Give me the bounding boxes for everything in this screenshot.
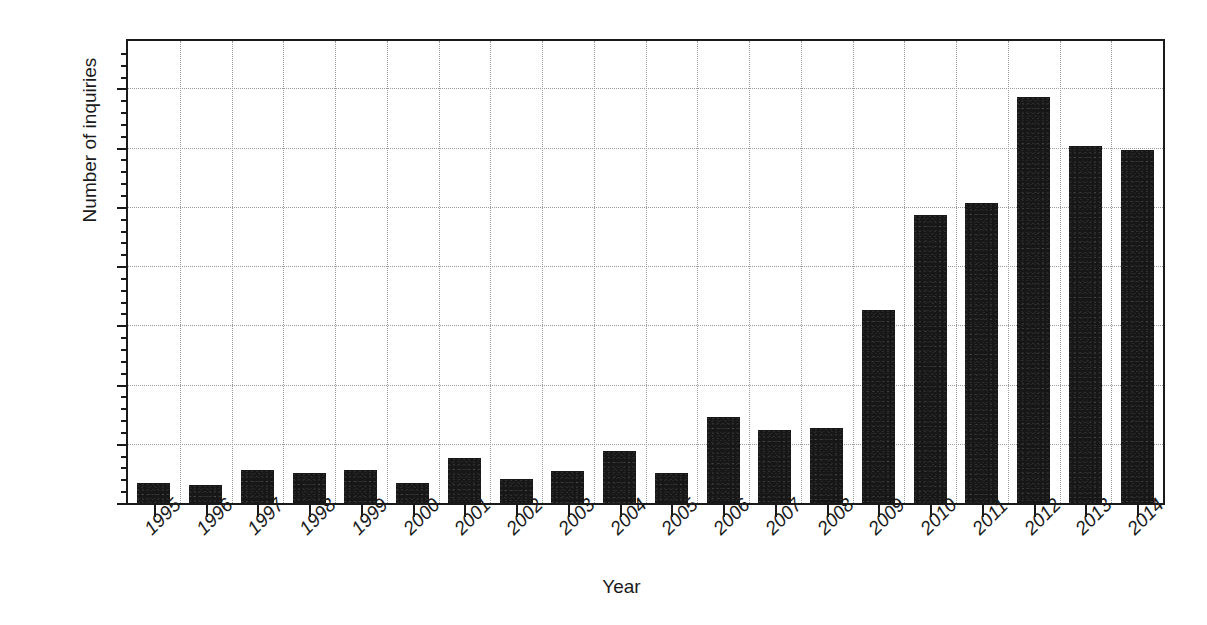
y-tick-minor [121, 136, 128, 138]
y-tick-minor [121, 467, 128, 469]
bar [707, 417, 740, 503]
y-tick-minor [121, 396, 128, 398]
y-tick-minor [121, 491, 128, 493]
x-gridline [283, 41, 284, 503]
y-tick-minor [121, 195, 128, 197]
bar [965, 203, 998, 503]
x-axis-title: Year [0, 576, 1207, 598]
y-tick-major [117, 444, 128, 446]
y-tick-minor [121, 65, 128, 67]
y-tick-minor [121, 278, 128, 280]
bar [810, 428, 843, 503]
y-tick-minor [121, 53, 128, 55]
y-tick-minor [121, 313, 128, 315]
y-tick-minor [121, 337, 128, 339]
y-tick-minor [121, 456, 128, 458]
x-gridline [1008, 41, 1009, 503]
y-tick-minor [121, 112, 128, 114]
x-gridline [1111, 41, 1112, 503]
y-tick-minor [121, 408, 128, 410]
x-gridline [439, 41, 440, 503]
y-tick-minor [121, 124, 128, 126]
y-tick-minor [121, 302, 128, 304]
y-tick-major [117, 266, 128, 268]
x-gridline [180, 41, 181, 503]
y-tick-minor [121, 373, 128, 375]
x-gridline [904, 41, 905, 503]
x-gridline [335, 41, 336, 503]
x-gridline [1060, 41, 1061, 503]
bar [1069, 146, 1102, 503]
plot-inner [128, 41, 1163, 503]
y-tick-minor [121, 479, 128, 481]
y-tick-minor [121, 242, 128, 244]
y-tick-major [117, 325, 128, 327]
y-tick-minor [121, 77, 128, 79]
y-tick-minor [121, 219, 128, 221]
x-gridline [956, 41, 957, 503]
x-gridline [749, 41, 750, 503]
y-tick-minor [121, 100, 128, 102]
bar [1121, 150, 1154, 503]
x-axis-title-text: Year [602, 576, 640, 598]
y-tick-minor [121, 290, 128, 292]
x-gridline [542, 41, 543, 503]
y-tick-minor [121, 159, 128, 161]
y-tick-minor [121, 171, 128, 173]
bar [758, 430, 791, 503]
y-tick-minor [121, 361, 128, 363]
bar [603, 451, 636, 503]
x-gridline [646, 41, 647, 503]
bar [914, 215, 947, 503]
y-tick-minor [121, 254, 128, 256]
x-gridline [594, 41, 595, 503]
x-gridline [232, 41, 233, 503]
x-gridline [387, 41, 388, 503]
y-tick-major [117, 88, 128, 90]
x-gridline [697, 41, 698, 503]
bar [862, 310, 895, 503]
y-tick-major [117, 207, 128, 209]
y-tick-major [117, 503, 128, 505]
plot-area: 050100150200250300350 [126, 39, 1165, 505]
x-gridline [853, 41, 854, 503]
bar [1017, 97, 1050, 503]
bar-chart-figure: Number of inquiries 05010015020025030035… [0, 0, 1207, 625]
y-tick-minor [121, 183, 128, 185]
y-tick-major [117, 148, 128, 150]
y-tick-minor [121, 231, 128, 233]
y-tick-minor [121, 420, 128, 422]
y-tick-minor [121, 432, 128, 434]
x-gridline [490, 41, 491, 503]
y-tick-major [117, 385, 128, 387]
y-tick-minor [121, 349, 128, 351]
x-gridline [801, 41, 802, 503]
y-axis-title: Number of inquiries [70, 0, 110, 290]
